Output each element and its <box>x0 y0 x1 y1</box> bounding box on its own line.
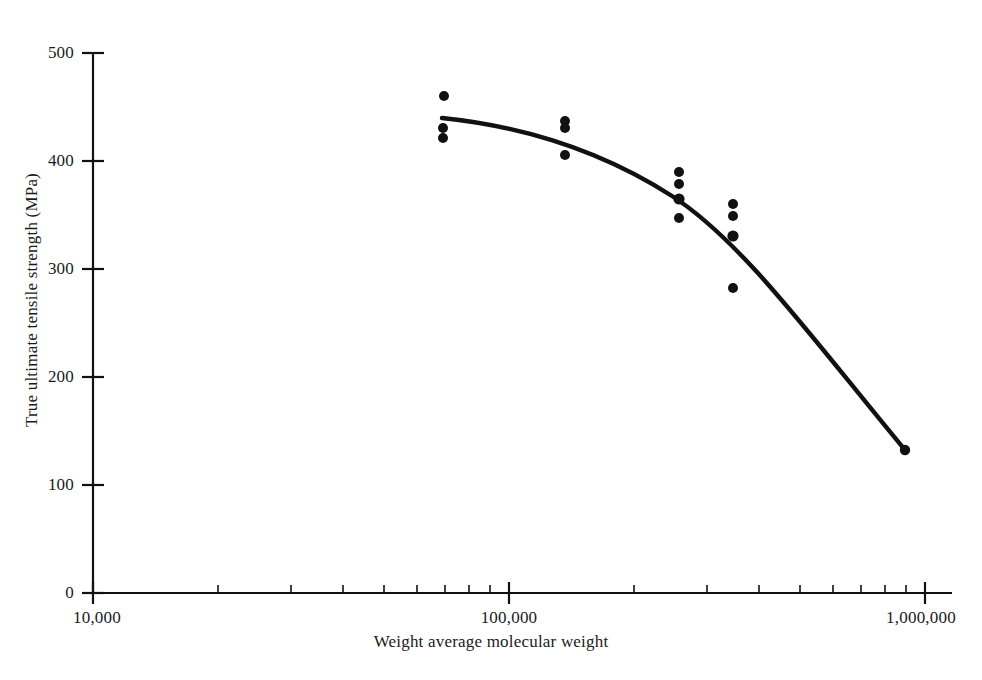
data-point-markers <box>438 91 910 455</box>
x-axis-minor-ticks <box>218 585 906 593</box>
data-point <box>439 91 449 101</box>
x-tick-label-10000: 10,000 <box>73 608 121 628</box>
data-point <box>674 213 684 223</box>
x-tick-label-1000000: 1,000,000 <box>886 608 956 628</box>
y-axis-title: True ultimate tensile strength (MPa) <box>22 20 46 580</box>
plot-canvas <box>0 0 982 680</box>
data-point <box>900 445 910 455</box>
y-tick-label-0: 0 <box>38 583 74 603</box>
x-tick-label-100000: 100,000 <box>481 608 538 628</box>
data-point <box>728 283 738 293</box>
data-point <box>560 150 570 160</box>
x-axis-title: Weight average molecular weight <box>0 632 982 652</box>
data-point <box>438 123 448 133</box>
data-point <box>674 179 684 189</box>
data-point <box>728 199 738 209</box>
trend-curve <box>442 118 905 450</box>
data-point <box>728 211 738 221</box>
data-point <box>727 230 738 241</box>
data-point <box>560 123 570 133</box>
data-point <box>673 193 684 204</box>
data-point <box>674 167 684 177</box>
data-point <box>438 133 448 143</box>
chart-figure: 500 400 300 200 100 0 10,000 100,000 1,0… <box>0 0 982 680</box>
